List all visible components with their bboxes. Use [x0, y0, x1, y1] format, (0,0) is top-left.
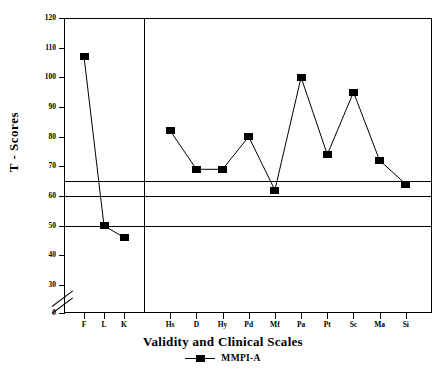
x-tick-mark-d — [196, 313, 197, 319]
reference-line-50 — [64, 226, 432, 227]
y-tick-label-120: 120 — [30, 14, 56, 22]
mmpi-a-profile-chart: 030405060708090100110120 FLKHsDHyPdMfPaP… — [0, 0, 446, 375]
x-tick-mark-hy — [223, 313, 224, 319]
data-point-d — [192, 166, 201, 173]
y-axis-break-icon — [50, 286, 80, 314]
y-tick-mark-100 — [59, 77, 65, 78]
y-tick-label-90: 90 — [30, 103, 56, 111]
x-tick-label-si: Si — [391, 321, 421, 329]
y-tick-mark-60 — [59, 196, 65, 197]
x-tick-mark-pd — [249, 313, 250, 319]
y-tick-label-60: 60 — [30, 192, 56, 200]
x-tick-mark-f — [84, 313, 85, 319]
y-tick-mark-40 — [59, 255, 65, 256]
data-point-l — [100, 222, 109, 229]
data-point-k — [120, 234, 129, 241]
x-tick-mark-pa — [301, 313, 302, 319]
x-tick-mark-si — [406, 313, 407, 319]
data-point-sc — [349, 89, 358, 96]
data-point-f — [80, 53, 89, 60]
y-tick-label-50: 50 — [30, 222, 56, 230]
reference-line-65 — [64, 181, 432, 182]
y-axis-title: T - Scores — [6, 112, 28, 172]
y-tick-mark-80 — [59, 137, 65, 138]
x-tick-mark-mf — [275, 313, 276, 319]
x-tick-label-k: K — [109, 321, 139, 329]
x-tick-mark-ma — [380, 313, 381, 319]
data-point-si — [401, 181, 410, 188]
data-point-ma — [375, 157, 384, 164]
y-tick-label-40: 40 — [30, 251, 56, 259]
y-tick-mark-70 — [59, 166, 65, 167]
y-tick-mark-110 — [59, 48, 65, 49]
y-tick-label-100: 100 — [30, 73, 56, 81]
y-tick-label-110: 110 — [30, 44, 56, 52]
y-tick-mark-120 — [59, 18, 65, 19]
chart-legend: MMPI-A — [0, 353, 446, 363]
x-tick-mark-pt — [327, 313, 328, 319]
x-tick-mark-k — [124, 313, 125, 319]
data-point-mf — [270, 187, 279, 194]
y-tick-mark-50 — [59, 226, 65, 227]
x-tick-mark-sc — [353, 313, 354, 319]
data-point-hy — [218, 166, 227, 173]
data-point-pt — [323, 151, 332, 158]
x-axis-title: Validity and Clinical Scales — [0, 334, 446, 350]
legend-marker-icon — [185, 354, 215, 362]
y-tick-label-80: 80 — [30, 133, 56, 141]
x-tick-mark-l — [104, 313, 105, 319]
y-tick-mark-90 — [59, 107, 65, 108]
validity-clinical-divider — [144, 18, 145, 313]
plot-area — [64, 18, 432, 313]
legend-label: MMPI-A — [221, 353, 260, 363]
y-tick-label-70: 70 — [30, 162, 56, 170]
x-tick-mark-hs — [170, 313, 171, 319]
data-point-hs — [166, 127, 175, 134]
data-point-pd — [244, 133, 253, 140]
reference-line-60 — [64, 196, 432, 197]
data-point-pa — [297, 74, 306, 81]
